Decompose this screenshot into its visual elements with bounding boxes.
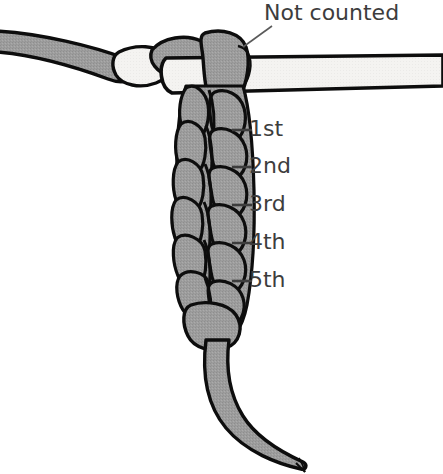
label-stitch-5th: 5th — [249, 269, 286, 291]
label-not-counted: Not counted — [264, 2, 399, 24]
label-stitch-2nd: 2nd — [249, 155, 291, 177]
label-stitch-1st: 1st — [249, 118, 283, 140]
label-stitch-4th: 4th — [249, 231, 286, 253]
label-stitch-3rd: 3rd — [249, 193, 286, 215]
crochet-chain-diagram: Not counted 1st 2nd 3rd 4th 5th — [0, 0, 443, 474]
diagram-canvas — [0, 0, 443, 474]
chain-stitch-braid — [172, 86, 254, 350]
